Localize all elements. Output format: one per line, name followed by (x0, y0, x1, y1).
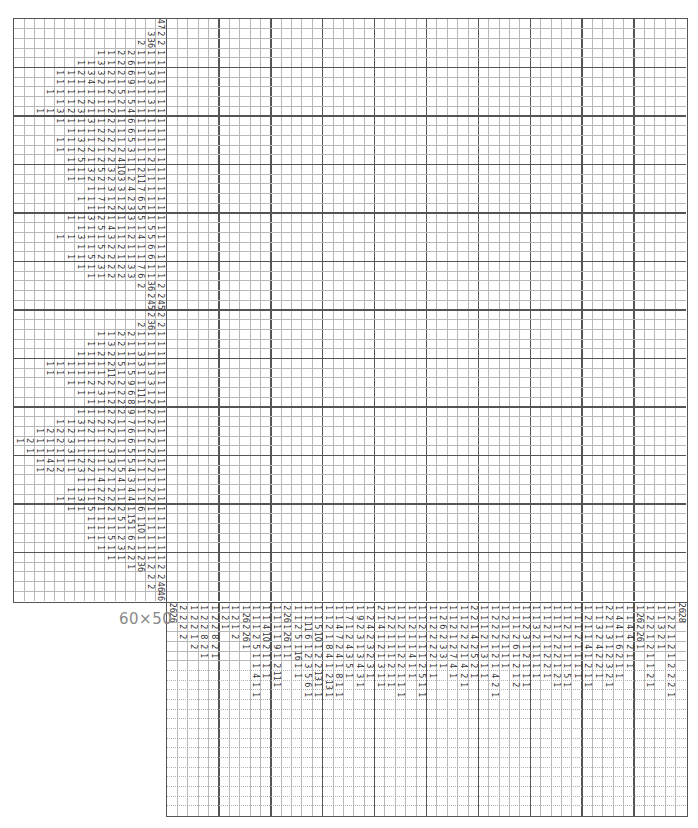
grid-line-horizontal (167, 562, 686, 563)
grid-line-horizontal (167, 406, 686, 408)
column-clue-number: 1 (271, 632, 281, 642)
column-clue-number: 1 (354, 603, 364, 613)
row-clue-number: 1 (75, 252, 85, 262)
column-clue-number: 2 (500, 632, 510, 642)
column-clue-number: 1 (562, 603, 572, 613)
column-clue-number: 1 (645, 680, 655, 690)
row-clues-panel: 4732236211221111131261111123322613111142… (13, 18, 166, 603)
column-clue-number: 1 (375, 680, 385, 690)
grid-line-horizontal (167, 222, 686, 223)
row-clue-number: 3 (115, 184, 125, 194)
grid-line-horizontal (167, 251, 686, 252)
row-clue-number: 1 (156, 184, 166, 194)
row-clue-number: 1 (135, 145, 145, 155)
column-clue-number: 1 (219, 603, 229, 613)
row-clue-number: 1 (156, 543, 166, 553)
row-clue-number: 2 (105, 116, 115, 126)
row-clue-number: 1 (95, 397, 105, 407)
row-clue-number: 1 (75, 407, 85, 417)
column-clue-number: 8 (209, 632, 219, 642)
column-clue-number: 2 (344, 632, 354, 642)
column-clue-number: 1 (468, 670, 478, 680)
row-clue-number: 1 (115, 213, 125, 223)
row-clue-number: 5 (146, 232, 156, 242)
grid-line-horizontal (167, 203, 686, 204)
grid-line-horizontal (167, 494, 686, 495)
puzzle-grid[interactable] (166, 18, 688, 603)
row-clue-number: 1 (115, 523, 125, 533)
row-clue-number: 1 (45, 446, 55, 456)
row-clue-number: 3 (125, 203, 135, 213)
row-clue-number: 2 (105, 494, 115, 504)
row-clue-number: 1 (115, 252, 125, 262)
row-clue-number: 1 (135, 135, 145, 145)
column-clue-number: 1 (562, 680, 572, 690)
row-clue-number: 1 (156, 397, 166, 407)
column-clue-number: 1 (427, 661, 437, 671)
row-clue-number: 1 (135, 397, 145, 407)
column-clue-number: 1 (603, 680, 613, 690)
row-clue-number: 1 (156, 135, 166, 145)
column-clue-number: 1 (219, 622, 229, 632)
column-clue-number: 2 (666, 661, 676, 671)
row-clue-number: 5 (125, 446, 135, 456)
row-clue-number: 2 (125, 48, 135, 58)
row-clue-number: 3 (125, 475, 135, 485)
row-clue-number: 1 (156, 339, 166, 349)
column-clue-number: 2 (479, 632, 489, 642)
row-clue-number: 1 (156, 58, 166, 68)
nonogram-board: 4732236211221111131261111123322613111142… (13, 18, 688, 817)
column-clue-number: 1 (302, 690, 312, 700)
row-clue-number: 1 (125, 339, 135, 349)
column-clue-number: 4 (468, 632, 478, 642)
row-clue-number: 1 (156, 329, 166, 339)
row-clue-number: 2 (105, 407, 115, 417)
row-clue-number: 1 (75, 193, 85, 203)
row-clue-number: 1 (65, 252, 75, 262)
row-clue-number: 4 (135, 232, 145, 242)
row-clue-number: 1 (105, 58, 115, 68)
row-clue-number: 2 (55, 426, 65, 436)
row-clue-number: 1 (75, 378, 85, 388)
row-clue-number: 2 (95, 378, 105, 388)
row-clue-number: 1 (95, 407, 105, 417)
row-clue-number: 2 (105, 145, 115, 155)
row-clue-number: 1 (65, 465, 75, 475)
row-clue-number: 2 (115, 378, 125, 388)
puzzle-size-label: 60×50 (119, 610, 172, 628)
row-clue-number: 1 (95, 446, 105, 456)
row-clue-number: 1 (95, 426, 105, 436)
row-clue-number: 1 (85, 436, 95, 446)
row-clue-number: 4 (125, 465, 135, 475)
row-clue-number: 3 (105, 184, 115, 194)
row-clue-number: 6 (135, 271, 145, 281)
row-clue-number: 4 (95, 475, 105, 485)
grid-line-horizontal (167, 183, 686, 184)
row-clue-number: 2 (105, 135, 115, 145)
row-clue-number: 1 (146, 329, 156, 339)
row-clue-number: 1 (156, 446, 166, 456)
grid-line-horizontal (167, 358, 686, 360)
column-clue-number: 1 (198, 651, 208, 661)
column-clue-number: 2 (250, 632, 260, 642)
column-clue-number: 1 (250, 661, 260, 671)
row-clue-number: 2 (95, 213, 105, 223)
grid-line-horizontal (167, 571, 686, 572)
row-clue-number: 1 (135, 87, 145, 97)
row-clue-number: 3 (105, 232, 115, 242)
row-clue-number: 1 (146, 523, 156, 533)
row-clue-number: 5 (115, 87, 125, 97)
row-clue-number: 1 (156, 145, 166, 155)
row-clue-number: 2 (146, 494, 156, 504)
column-clue-number: 1 (614, 632, 624, 642)
row-clue-number: 1 (14, 436, 24, 446)
grid-line-horizontal (167, 542, 686, 543)
column-clue-number: 2 (541, 661, 551, 671)
grid-line-horizontal (167, 377, 686, 378)
column-clue-number: 6 (302, 632, 312, 642)
row-clue-number: 1 (115, 135, 125, 145)
row-clue-number: 3 (75, 465, 85, 475)
row-clue-number: 1 (85, 368, 95, 378)
grid-line-horizontal (167, 776, 686, 777)
row-clue-number: 2 (115, 329, 125, 339)
